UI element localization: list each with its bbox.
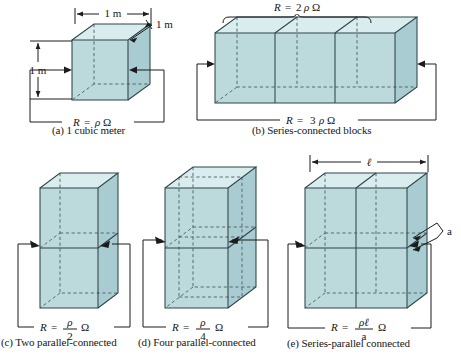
brace-resistance-symbol: R [273, 1, 281, 13]
terminal-arrow-left-c [30, 241, 40, 249]
terminal-arrow-left [64, 67, 72, 74]
cube-a [72, 24, 150, 100]
terminal-arrow-right-b [417, 61, 425, 68]
blocks-front-face [215, 33, 395, 103]
panel-c: R = ρ 2 Ω (c) Two parallel-connected [0, 150, 155, 362]
blocks-e [305, 173, 427, 308]
fraction-numerator-d: ρ [199, 316, 205, 328]
terminal-arrow-left-d [155, 237, 166, 245]
arrowhead-left [77, 12, 83, 17]
brace-rho-symbol: ρ [303, 1, 309, 13]
ohm-symbol-d: Ω [215, 321, 223, 333]
ohm-symbol-e: Ω [378, 321, 386, 333]
panel-e: ℓ a R = ρℓ [285, 150, 461, 362]
resistance-symbol-e: R [330, 321, 338, 333]
panel-b-drawing: R = 2 ρ Ω R = 3 ρ [190, 0, 461, 140]
figure-resistance-blocks: 1 m 1 m 1 m [0, 0, 461, 362]
panel-b: R = 2 ρ Ω R = 3 ρ [190, 0, 461, 140]
terminal-arrow-left-b [207, 61, 215, 68]
arrowhead-down [36, 91, 41, 97]
arrowhead-length-right-e [420, 160, 426, 165]
dimension-area-label-e: a [447, 225, 452, 237]
panel-e-drawing: ℓ a R = ρℓ [285, 150, 461, 362]
panel-b-caption: (b) Series-connected blocks [252, 124, 371, 136]
brace-ohm-symbol: Ω [312, 1, 320, 13]
arrowhead-length-left-e [312, 160, 318, 165]
panel-a: 1 m 1 m 1 m [0, 0, 190, 140]
fraction-numerator-c: ρ [66, 316, 72, 328]
panel-d: R = ρ 4 Ω (d) Four parallel-connected [140, 150, 300, 362]
resistance-symbol-d: R [171, 321, 179, 333]
terminal-arrow-left-e [295, 241, 306, 249]
arrowhead-up [36, 43, 41, 49]
panel-c-caption: (c) Two parallel-connected [1, 336, 117, 348]
panel-a-drawing: 1 m 1 m 1 m [0, 0, 190, 140]
panel-c-drawing: R = ρ 2 Ω [0, 150, 155, 362]
cube-front-face [72, 40, 128, 100]
brace-equals-sign: = [285, 1, 291, 13]
blocks-b [215, 17, 417, 103]
resistance-symbol-c: R [39, 321, 47, 333]
equals-sign-e: = [342, 321, 348, 333]
brace-label-b: R = 2 ρ Ω [273, 1, 320, 13]
dimension-depth-label: 1 m [156, 18, 173, 30]
equals-sign-d: = [183, 321, 189, 333]
blocks-top-face [215, 17, 417, 33]
blocks-c [40, 173, 118, 308]
panel-d-drawing: R = ρ 4 Ω [140, 150, 300, 362]
ohm-symbol-c: Ω [81, 321, 89, 333]
arrowhead-right [143, 12, 149, 17]
panel-e-caption: (e) Series-parallel connected [287, 337, 410, 349]
dimension-length-label-e: ℓ [367, 156, 372, 168]
blocks-d [165, 167, 256, 308]
panel-d-caption: (d) Four parallel-connected [138, 336, 256, 348]
panel-a-caption: (a) 1 cubic meter [52, 124, 125, 136]
brace-coefficient: 2 [296, 1, 302, 13]
dimension-width-label: 1 m [105, 7, 122, 19]
fraction-numerator-e: ρℓ [358, 316, 369, 328]
dimension-width: 1 m [75, 6, 151, 26]
dimension-length-e: ℓ [310, 153, 428, 172]
equals-sign-c: = [51, 321, 57, 333]
